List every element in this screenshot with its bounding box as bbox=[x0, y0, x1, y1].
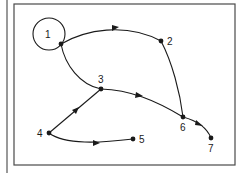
node-5 bbox=[131, 137, 136, 142]
graph-diagram: 1 2 3 4 5 6 7 bbox=[0, 0, 243, 173]
node-3 bbox=[99, 87, 104, 92]
node-1 bbox=[59, 42, 64, 47]
edge-4-5 bbox=[49, 133, 133, 142]
node-7 bbox=[209, 136, 214, 141]
edge-1-3 bbox=[61, 44, 101, 89]
arrow-icon-6-7 bbox=[195, 120, 203, 126]
node-label-3: 3 bbox=[98, 74, 104, 85]
node-4 bbox=[47, 131, 52, 136]
node-label-7: 7 bbox=[208, 143, 214, 154]
node-2 bbox=[159, 39, 164, 44]
edge-2-6 bbox=[161, 41, 183, 117]
node-label-6: 6 bbox=[180, 122, 186, 133]
edge-3-6 bbox=[101, 89, 183, 117]
arrow-icon-4-5 bbox=[93, 140, 100, 146]
node-label-4: 4 bbox=[37, 128, 43, 139]
edge-1-2 bbox=[61, 30, 161, 44]
node-label-2: 2 bbox=[167, 36, 173, 47]
node-label-5: 5 bbox=[139, 134, 145, 145]
edge-6-7 bbox=[183, 117, 211, 138]
node-6 bbox=[181, 115, 186, 120]
node-label-1: 1 bbox=[45, 29, 51, 40]
